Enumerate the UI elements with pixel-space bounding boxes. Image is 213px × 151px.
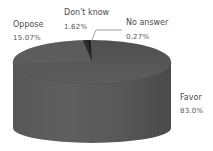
label-favor: Favor (180, 93, 202, 103)
value-oppose: 15.07% (13, 34, 41, 43)
value-dont-know: 1.62% (64, 23, 87, 32)
label-oppose: Oppose (13, 20, 43, 30)
slice-oppose (13, 40, 92, 64)
label-no-answer: No answer (126, 18, 168, 28)
label-dont-know: Don't know (64, 8, 109, 18)
value-no-answer: 0.27% (126, 33, 149, 42)
value-favor: 83.0% (180, 107, 203, 116)
